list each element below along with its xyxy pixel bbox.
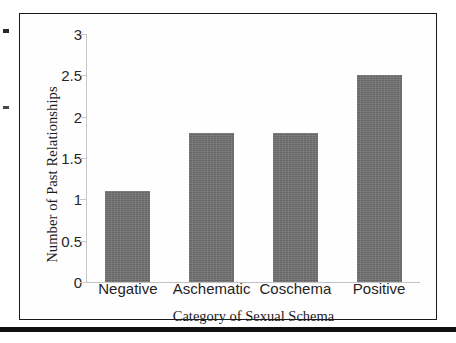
y-axis-tick-mark [80,75,87,76]
scan-artifact-mark-top [3,29,9,33]
y-axis-tick-mark [80,282,87,283]
x-axis-tick-label: Coschema [260,280,332,297]
bar-positive [357,75,402,282]
bar-coschema [273,133,318,282]
y-axis-tick-mark [80,241,87,242]
page-separator-rule [0,327,456,332]
y-axis-tick-label: 3 [36,27,82,42]
y-axis-tick-mark [80,199,87,200]
y-axis-tick-label: 0 [36,275,82,290]
y-axis-tick-label: 2 [36,109,82,124]
y-axis-tick-mark [80,117,87,118]
y-axis-tick-mark [80,158,87,159]
y-axis-tick-label: 0.5 [36,233,82,248]
x-axis-tick-label: Negative [98,280,157,297]
y-axis-tick-labels: 00.511.522.53 [36,14,82,319]
y-axis-tick-mark [80,34,87,35]
scan-artifact-mark-bottom [3,106,9,109]
plot-area [86,21,421,289]
bar-negative [105,191,150,282]
y-axis-tick-label: 2.5 [36,68,82,83]
x-axis-tick-label: Aschematic [173,280,251,297]
figure-frame: Number of Past Relationships 00.511.522.… [19,13,437,320]
bar-aschematic [189,133,234,282]
y-axis-tick-label: 1 [36,192,82,207]
x-axis-tick-label: Positive [353,280,406,297]
x-axis-title: Category of Sexual Schema [86,308,421,325]
y-axis-tick-label: 1.5 [36,151,82,166]
